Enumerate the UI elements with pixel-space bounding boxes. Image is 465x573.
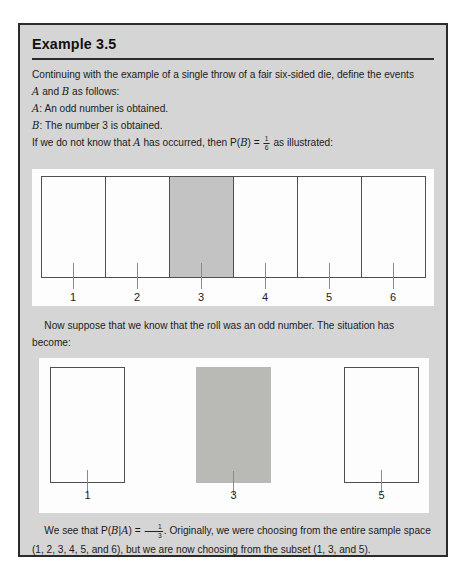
title-rule xyxy=(32,58,434,60)
intro-line-1: Continuing with the example of a single … xyxy=(32,66,435,83)
event-definition-b: B: The number 3 is obtained. xyxy=(32,117,435,134)
conclusion-line-2: (1, 2, 3, 4, 5, and 6), but we are now c… xyxy=(32,541,435,558)
die-cell-5 xyxy=(297,176,362,278)
prob-b-end: as illustrated: xyxy=(271,136,333,148)
conclusion-end: . Originally, we were choosing from the … xyxy=(164,524,431,536)
prob-b-pre: If we do not know that xyxy=(32,136,133,148)
intro-paragraph: Continuing with the example of a single … xyxy=(32,66,434,152)
prob-b-mid: has occurred, then P( xyxy=(141,136,241,148)
die-cell-label-5: 5 xyxy=(297,291,361,303)
tick-mark xyxy=(393,263,394,289)
die-cell-label-2: 2 xyxy=(105,291,169,303)
math-var-a: A xyxy=(121,523,128,537)
intro-line-2: A and B as follows: xyxy=(32,83,435,100)
die-cell-1 xyxy=(41,176,106,278)
tick-mark xyxy=(329,263,330,289)
die-cell-2 xyxy=(105,176,170,278)
tick-mark xyxy=(201,263,202,289)
prob-b-close: ) = xyxy=(248,136,263,148)
example-box: Example 3.5 Continuing with the example … xyxy=(18,23,448,557)
die-cell-3-shaded xyxy=(169,176,234,278)
fraction-denominator: 3 xyxy=(144,532,163,540)
conclusion-close: ) = xyxy=(128,524,143,536)
event-b-text: : The number 3 is obtained. xyxy=(39,119,162,131)
fraction-one-third: 13 xyxy=(144,523,163,541)
middle-line-2: become: xyxy=(32,334,435,351)
fraction-one-sixth: 16 xyxy=(263,135,269,153)
prob-b-statement: If we do not know that A has occurred, t… xyxy=(32,134,435,152)
die-cell-4 xyxy=(233,176,298,278)
intro-line-2-end: as follows: xyxy=(69,85,119,97)
example-title: Example 3.5 xyxy=(32,35,414,53)
die-cell-label-3: 3 xyxy=(169,291,233,303)
die-outcomes-row xyxy=(32,169,434,278)
middle-line-1: Now suppose that we know that the roll w… xyxy=(32,317,435,334)
tick-mark xyxy=(73,263,74,289)
conclusion-paragraph: We see that P(B|A) = 13. Originally, we … xyxy=(32,522,434,557)
tick-mark xyxy=(137,263,138,289)
math-var-b: B xyxy=(240,135,247,149)
outcome-label-1: 1 xyxy=(50,489,125,501)
outcome-label-5: 5 xyxy=(344,489,419,501)
event-a-text: : An odd number is obtained. xyxy=(39,102,168,114)
odd-subset-panel: 1 3 5 xyxy=(39,358,429,513)
conclusion-pre: We see that P( xyxy=(44,524,111,536)
die-cell-label-1: 1 xyxy=(41,291,105,303)
die-cell-label-6: 6 xyxy=(361,291,425,303)
die-labels-row: 1 2 3 4 5 6 xyxy=(32,291,434,303)
textbook-page: Example 3.5 Continuing with the example … xyxy=(0,0,465,573)
middle-paragraph: Now suppose that we know that the roll w… xyxy=(32,317,434,351)
outcome-rect-3-shaded xyxy=(196,367,271,483)
conclusion-line-1: We see that P(B|A) = 13. Originally, we … xyxy=(32,522,435,540)
outcome-label-3: 3 xyxy=(196,489,271,501)
outcome-rect-5 xyxy=(344,367,419,483)
die-cell-6 xyxy=(361,176,426,278)
event-definition-a: A: An odd number is obtained. xyxy=(32,100,435,117)
die-cell-label-4: 4 xyxy=(233,291,297,303)
outcome-rect-1 xyxy=(50,367,125,483)
intro-line-2-mid: and xyxy=(39,85,62,97)
fraction-denominator: 6 xyxy=(263,144,269,152)
sample-space-panel: 1 2 3 4 5 6 xyxy=(32,169,434,306)
tick-mark xyxy=(265,263,266,289)
